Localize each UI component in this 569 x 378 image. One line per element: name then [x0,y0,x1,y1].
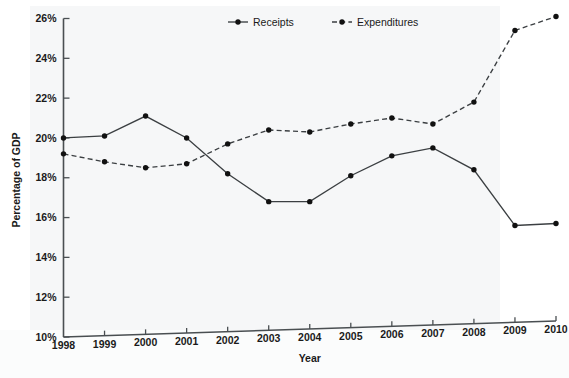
y-tick-label: 16% [35,211,57,223]
data-point-marker [225,171,230,176]
data-point-marker [61,151,66,156]
data-point-marker [102,159,107,164]
x-axis-title: Year [299,352,321,364]
data-point-marker [348,173,353,178]
y-tick-label: 22% [35,92,57,104]
x-tick-label: 2000 [134,336,158,348]
figure-caption [0,368,569,378]
data-point-marker [184,161,189,166]
data-point-marker [61,135,66,140]
data-point-marker [389,115,394,120]
y-tick-label: 20% [35,132,57,144]
x-tick-label: 2010 [544,323,568,335]
x-tick-label: 2003 [257,332,281,344]
data-point-marker [512,223,517,228]
legend-marker-expenditures [339,19,344,24]
data-point-marker [512,28,517,33]
data-point-marker [430,121,435,126]
data-point-marker [266,199,271,204]
y-tick-label: 18% [35,171,57,183]
x-tick-label: 2006 [380,328,404,340]
data-point-marker [307,199,312,204]
line-chart: 10%12%14%16%18%20%22%24%26% 199819992000… [0,0,569,378]
legend-label-receipts: Receipts [253,16,294,28]
x-tick-label: 2001 [175,335,199,347]
x-tick-label: 2002 [216,334,240,346]
x-tick-label: 2008 [462,326,486,338]
legend-label-expenditures: Expenditures [357,16,418,28]
x-tick-label: 2005 [339,330,363,342]
data-point-marker [143,165,148,170]
data-point-marker [553,221,558,226]
data-point-marker [348,121,353,126]
series-line-expenditures [64,17,557,168]
x-tick-label: 2004 [298,331,322,343]
data-point-marker [471,167,476,172]
data-point-marker [266,127,271,132]
data-point-marker [143,113,148,118]
x-tick-label: 1998 [52,339,76,351]
data-point-marker [553,14,558,19]
data-point-marker [307,129,312,134]
y-axis: 10%12%14%16%18%20%22%24%26% [35,12,69,343]
y-axis-title: Percentage of GDP [10,132,22,227]
data-point-marker [471,99,476,104]
y-tick-label: 26% [35,12,57,24]
x-tick-label: 2009 [503,324,527,336]
x-axis: 1998199920002001200220032004200520062007… [52,316,568,351]
x-tick-label: 1999 [93,338,117,350]
data-point-marker [225,141,230,146]
chart-series-group [61,14,559,228]
data-point-marker [184,135,189,140]
chart-legend: ReceiptsExpenditures [228,16,418,28]
y-tick-label: 12% [35,291,57,303]
data-point-marker [389,153,394,158]
data-point-marker [102,133,107,138]
x-tick-label: 2007 [421,327,445,339]
data-point-marker [430,145,435,150]
legend-marker-receipts [235,19,240,24]
y-tick-label: 14% [35,251,57,263]
chart-figure: 10%12%14%16%18%20%22%24%26% 199819992000… [0,0,569,378]
y-tick-label: 24% [35,52,57,64]
